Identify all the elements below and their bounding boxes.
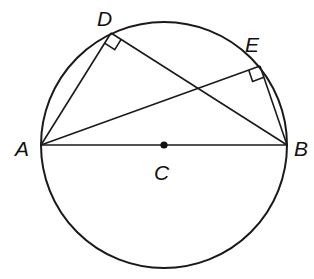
label-b: B [294,137,308,160]
segment-ad [41,33,111,145]
label-d: D [97,7,112,30]
label-c: C [154,161,170,184]
center-point [160,141,167,148]
label-e: E [245,33,260,56]
geometry-diagram: A B C D E [0,0,314,279]
segment-ae [41,66,260,145]
right-angle-marker-d [105,39,121,49]
label-a: A [13,137,29,160]
segment-db [111,33,287,145]
